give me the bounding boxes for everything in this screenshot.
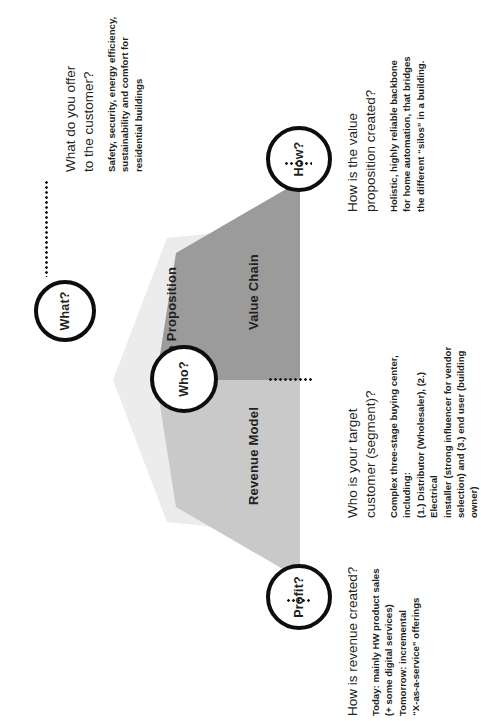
note-who-question: Who is your target customer (segment)? (344, 336, 380, 518)
connector-what (45, 180, 48, 277)
note-who: Who is your target customer (segment)? C… (344, 336, 481, 518)
note-what-answer: Safety, security, energy efficiency, sus… (105, 6, 145, 172)
node-what-label: What? (58, 291, 72, 330)
connector-how (284, 162, 312, 165)
note-what: What do you offer to the customer? Safet… (62, 6, 145, 172)
note-how: How is the value proposition created? Ho… (344, 34, 427, 212)
wedge-label-value-chain: Value Chain (246, 254, 261, 330)
node-who-label: Who? (177, 361, 191, 397)
node-what[interactable]: What? (34, 280, 96, 342)
note-profit: How is revenue created? Today: mainly HW… (344, 546, 423, 716)
note-who-answer: Complex three-stage buying center, inclu… (387, 336, 481, 518)
wedge-label-revenue-model: Revenue Model (246, 407, 261, 505)
node-how-label: How? (292, 142, 306, 177)
node-who[interactable]: Who? (150, 345, 218, 413)
note-profit-answer: Today: mainly HW product sales (+ some d… (369, 546, 423, 716)
connector-who (268, 378, 314, 381)
connector-profit (286, 599, 312, 602)
note-how-question: How is the value proposition created? (344, 34, 380, 212)
note-what-question: What do you offer to the customer? (62, 6, 98, 172)
node-profit[interactable]: Profit? (266, 564, 332, 630)
note-profit-question: How is revenue created? (344, 546, 362, 716)
node-profit-label: Profit? (292, 576, 306, 618)
note-how-answer: Holistic, highly reliable backbone for h… (387, 34, 427, 212)
node-how[interactable]: How? (266, 126, 332, 192)
